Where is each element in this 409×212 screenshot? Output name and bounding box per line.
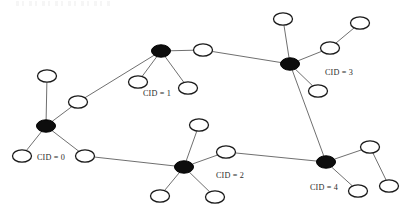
graph-edge (165, 57, 184, 83)
graph-edge (295, 69, 312, 86)
graph-edge (235, 153, 316, 161)
network-graph-figure: CID = 0CID = 1CID = 2CID = 3CID = 4 (0, 0, 409, 212)
graph-edge (373, 153, 386, 180)
graph-leaf-node[interactable] (351, 17, 370, 29)
graph-leaf-node[interactable] (194, 44, 213, 56)
graph-hub-node[interactable] (281, 58, 300, 70)
graph-edge (186, 131, 197, 161)
graph-edge (189, 172, 209, 192)
graph-leaf-node[interactable] (76, 150, 95, 162)
cluster-id-label: CID = 3 (325, 68, 353, 77)
graph-leaf-node[interactable] (380, 180, 399, 192)
graph-leaf-node[interactable] (13, 150, 32, 162)
graph-hub-node[interactable] (317, 156, 336, 168)
graph-leaf-node[interactable] (321, 42, 340, 54)
graph-edge (212, 51, 281, 62)
cluster-id-label: CID = 2 (216, 171, 244, 180)
graph-leaf-node[interactable] (151, 190, 170, 202)
graph-leaf-node[interactable] (206, 191, 225, 203)
graph-edge (192, 155, 217, 164)
graph-edge (94, 157, 174, 166)
graph-edge (26, 132, 41, 151)
network-graph-canvas: CID = 0CID = 1CID = 2CID = 3CID = 4 (0, 0, 409, 212)
graph-leaf-node[interactable] (349, 185, 368, 197)
graph-leaf-node[interactable] (274, 13, 293, 25)
graph-leaf-node[interactable] (361, 141, 380, 153)
graph-hub-node[interactable] (152, 45, 171, 57)
graph-leaf-node[interactable] (129, 76, 148, 88)
graph-leaf-node[interactable] (69, 96, 88, 108)
graph-edge (284, 25, 289, 58)
cluster-id-label: CID = 4 (310, 183, 338, 192)
graph-edge (334, 150, 361, 159)
graph-edge (170, 50, 193, 51)
graph-leaf-node[interactable] (179, 82, 198, 94)
graph-leaf-node[interactable] (38, 70, 57, 82)
graph-leaf-node[interactable] (190, 119, 209, 131)
graph-leaf-node[interactable] (217, 146, 236, 158)
graph-edge (165, 172, 180, 190)
cluster-id-label: CID = 1 (143, 89, 171, 98)
graph-hub-node[interactable] (175, 161, 194, 173)
graph-edge (142, 57, 157, 77)
graph-leaf-node[interactable] (309, 85, 328, 97)
graph-edge (298, 51, 322, 61)
graph-edge (52, 107, 72, 122)
cluster-id-label: CID = 0 (37, 153, 65, 162)
graph-edge (292, 70, 324, 156)
graph-edge (336, 28, 354, 43)
graph-hub-node[interactable] (37, 120, 56, 132)
graph-edge (46, 82, 47, 120)
graph-edge (52, 131, 79, 152)
